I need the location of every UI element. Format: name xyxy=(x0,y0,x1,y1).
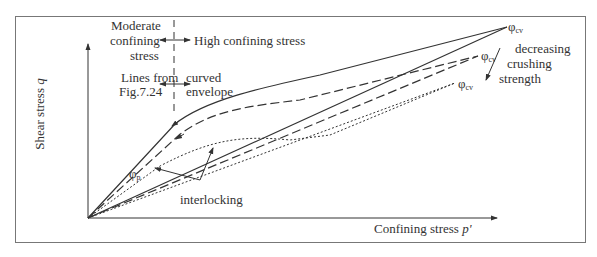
phi-cv-label-dashed: φcv xyxy=(481,48,496,67)
phi-cv-label-dotted: φcv xyxy=(458,76,473,95)
lines-from-label-1: Lines from xyxy=(121,70,178,85)
x-axis-label: Confining stress p' xyxy=(374,221,471,236)
decreasing-label-3: strength xyxy=(499,71,541,86)
decreasing-label-2: crushing xyxy=(507,56,552,71)
bend-arrow-solid xyxy=(172,120,180,126)
curved-envelope-label-1: curved xyxy=(186,70,221,85)
decreasing-label-1: decreasing xyxy=(515,41,571,56)
moderate-label-3: stress xyxy=(130,48,159,63)
curved-envelope-label-2: envelope xyxy=(186,84,233,99)
moderate-label-1: Moderate xyxy=(111,18,161,33)
moderate-label-2: confining xyxy=(110,33,160,48)
phi-p-label: φp xyxy=(129,166,141,185)
interlocking-pointer-right xyxy=(200,148,213,180)
high-confining-label: High confining stress xyxy=(194,33,305,48)
y-axis-label: Shear stress q xyxy=(32,64,48,164)
lines-from-label-2: Fig.7.24 xyxy=(119,84,162,99)
interlocking-label: interlocking xyxy=(180,192,243,207)
phi-cv-label-solid: φcv xyxy=(508,19,523,38)
